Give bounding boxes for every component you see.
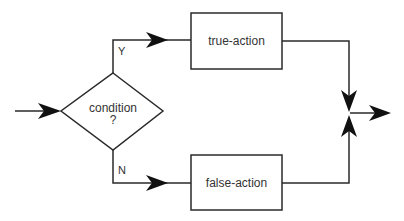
input-arrow xyxy=(15,103,61,119)
no-edge: N xyxy=(113,150,191,191)
output-arrow xyxy=(350,105,391,121)
yes-edge: Y xyxy=(113,32,191,73)
false-merge-edge xyxy=(282,115,357,183)
no-label: N xyxy=(118,164,126,176)
true-merge-edge xyxy=(282,41,357,112)
false-action-label: false-action xyxy=(206,176,267,190)
decision-node: condition ? xyxy=(61,73,163,150)
if-else-flowchart: condition ? Y N true-action false-action xyxy=(0,0,404,221)
true-action-label: true-action xyxy=(208,34,265,48)
false-action-node: false-action xyxy=(191,155,282,210)
decision-label-line2: ? xyxy=(110,113,117,127)
yes-label: Y xyxy=(118,45,126,57)
true-action-node: true-action xyxy=(191,13,282,69)
